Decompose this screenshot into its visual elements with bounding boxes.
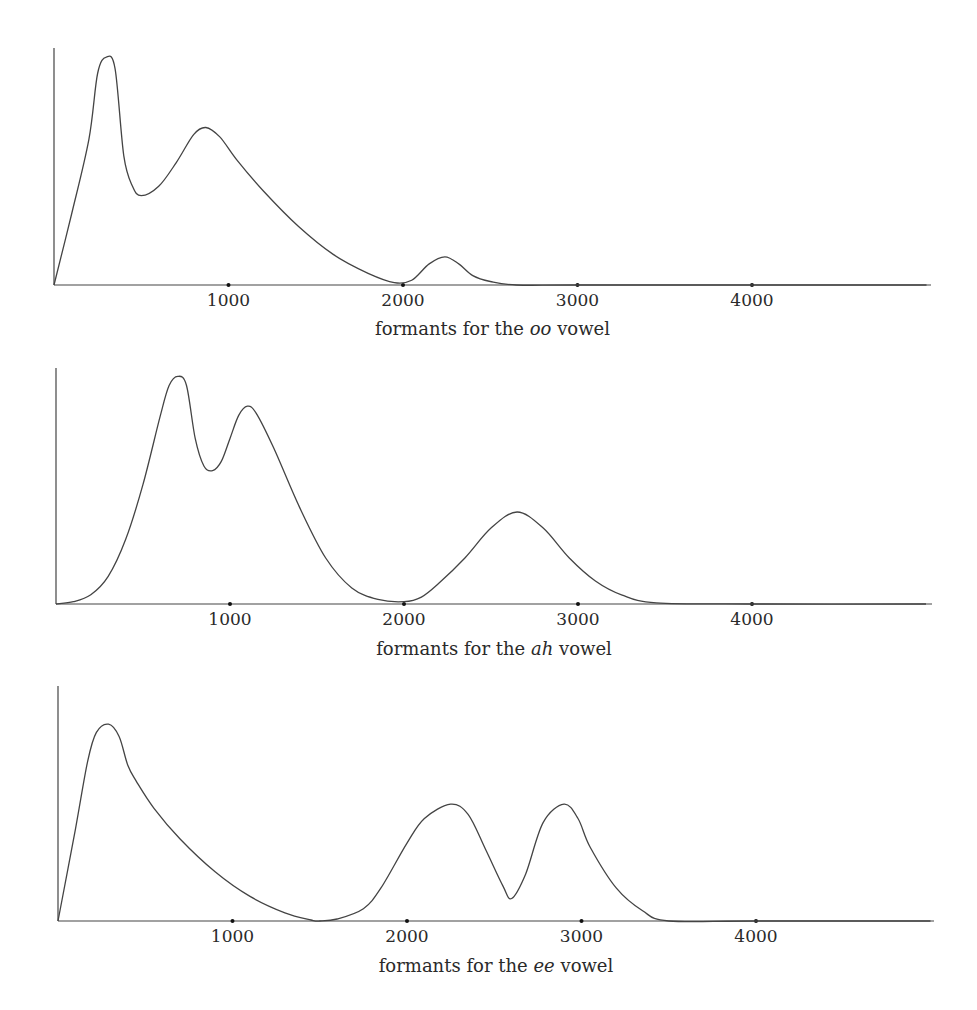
x-tick-label: 1000 xyxy=(208,609,251,629)
vowel-name: oo xyxy=(530,318,552,339)
oo-vowel-plot: 1000200030004000formants for the oo vowe… xyxy=(54,48,931,339)
plot-caption: formants for the oo vowel xyxy=(375,318,610,339)
plot-caption: formants for the ee vowel xyxy=(379,955,614,976)
x-tick-label: 4000 xyxy=(734,926,777,946)
x-tick-label: 4000 xyxy=(730,609,773,629)
x-tick-label: 2000 xyxy=(381,290,424,310)
x-tick-mark xyxy=(228,602,232,606)
plot-caption: formants for the ah vowel xyxy=(376,638,612,659)
x-tick-label: 2000 xyxy=(385,926,428,946)
x-tick-mark xyxy=(576,602,580,606)
x-tick-label: 1000 xyxy=(211,926,254,946)
formant-curve xyxy=(56,376,926,604)
vowel-name: ee xyxy=(533,955,554,976)
ee-vowel-plot: 1000200030004000formants for the ee vowe… xyxy=(58,686,934,976)
ah-vowel-plot: 1000200030004000formants for the ah vowe… xyxy=(56,368,932,659)
x-tick-mark xyxy=(402,602,406,606)
x-tick-label: 3000 xyxy=(556,609,599,629)
formant-curve xyxy=(58,724,931,922)
x-tick-label: 3000 xyxy=(556,290,599,310)
formant-figure: 1000200030004000formants for the oo vowe… xyxy=(0,0,977,1010)
x-tick-mark xyxy=(580,919,584,923)
vowel-name: ah xyxy=(531,638,553,659)
x-tick-mark xyxy=(405,919,409,923)
formant-curve xyxy=(54,56,927,285)
x-tick-label: 1000 xyxy=(207,290,250,310)
x-tick-label: 2000 xyxy=(382,609,425,629)
x-tick-label: 3000 xyxy=(560,926,603,946)
x-tick-mark xyxy=(227,283,231,287)
x-tick-label: 4000 xyxy=(730,290,773,310)
x-tick-mark xyxy=(231,919,235,923)
